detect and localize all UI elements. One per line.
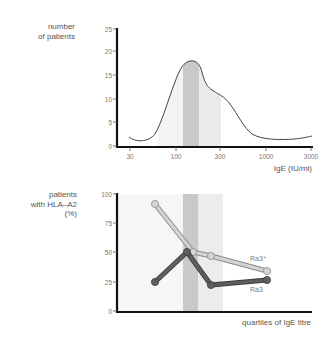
svg-text:30: 30 [126,153,134,160]
svg-text:5: 5 [108,119,112,126]
ra3-plus-point-3 [207,252,214,259]
band-faint-left [118,194,183,311]
svg-text:1000: 1000 [259,153,274,160]
svg-text:0: 0 [108,143,112,150]
ra3-point-3 [207,281,214,288]
ra3-point-1 [151,278,158,285]
chart-canvas: 0 5 10 15 20 25 30 100 300 1000 3000 [0,0,333,347]
ra3-plus-label: Ra3⁺ [250,255,267,262]
top-chart: 0 5 10 15 20 25 30 100 300 1000 3000 [105,20,319,160]
svg-text:100: 100 [171,153,182,160]
svg-text:100: 100 [101,191,112,198]
svg-text:25: 25 [105,26,113,33]
ra3-plus-point-4 [263,267,270,274]
ra3-plus-point-1 [151,200,158,207]
svg-text:0: 0 [108,308,112,315]
svg-text:300: 300 [215,153,226,160]
svg-text:10: 10 [105,96,113,103]
svg-text:3000: 3000 [304,153,319,160]
svg-text:25: 25 [105,279,113,286]
svg-text:15: 15 [105,72,113,79]
ra3-point-2 [183,248,190,255]
bottom-highlight-bands [118,194,223,311]
band-light-left [158,20,183,147]
top-y-ticks: 0 5 10 15 20 25 [105,26,117,150]
band-dark [183,20,199,147]
bottom-chart: Ra3⁺ Ra3 0 25 50 75 100 [101,191,312,315]
bottom-y-ticks: 0 25 50 75 100 [101,191,117,315]
top-highlight-bands [158,20,221,147]
ra3-label: Ra3 [250,286,263,293]
svg-text:20: 20 [105,48,113,55]
svg-text:50: 50 [105,249,113,256]
svg-text:75: 75 [105,220,113,227]
top-x-ticks: 30 100 300 1000 3000 [126,147,318,160]
ra3-point-4 [263,276,270,283]
band-light-right [199,20,221,147]
figure: number of patients IgE (IU/ml) patients … [0,0,333,347]
